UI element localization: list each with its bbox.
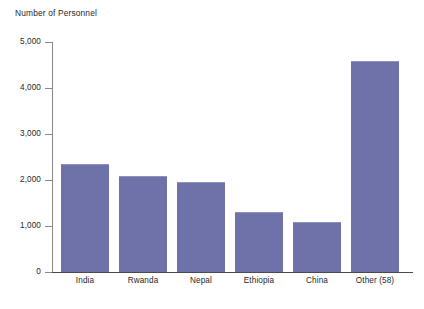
x-axis-label: China [288, 276, 346, 285]
y-axis-tick-mark [45, 272, 52, 273]
bar-series [52, 42, 408, 272]
bar-ethiopia [235, 212, 284, 272]
bar-slot [172, 42, 230, 272]
y-axis-title: Number of Personnel [15, 8, 97, 18]
x-axis-label: Ethiopia [230, 276, 288, 285]
y-axis-tick-label: 4,000 [0, 83, 41, 92]
bar-other-58 [351, 61, 400, 272]
y-axis-tick-label: 0 [0, 267, 41, 276]
bar-slot [288, 42, 346, 272]
y-axis-tick-label: 1,000 [0, 221, 41, 230]
y-axis-tick-label: 2,000 [0, 175, 41, 184]
y-axis-tick-label: 5,000 [0, 37, 41, 46]
y-axis-tick-mark [45, 42, 52, 43]
y-axis-tick-label: 3,000 [0, 129, 41, 138]
y-axis-tick-mark [45, 134, 52, 135]
x-axis-label: Other (58) [346, 276, 404, 285]
source-note-strip [0, 301, 424, 309]
bar-rwanda [119, 176, 168, 272]
bar-nepal [177, 182, 226, 272]
y-axis-tick-mark [45, 226, 52, 227]
bar-china [293, 222, 342, 272]
bar-slot [346, 42, 404, 272]
bar-slot [114, 42, 172, 272]
bar-chart: Number of Personnel 5,0004,0003,0002,000… [0, 0, 424, 309]
x-axis-baseline [52, 272, 413, 273]
y-axis-tick-mark [45, 88, 52, 89]
x-axis-label: Rwanda [114, 276, 172, 285]
bar-india [61, 164, 110, 272]
bar-slot [56, 42, 114, 272]
bar-slot [230, 42, 288, 272]
y-axis-tick-mark [45, 180, 52, 181]
x-axis-labels: IndiaRwandaNepalEthiopiaChinaOther (58) [52, 276, 408, 285]
x-axis-label: India [56, 276, 114, 285]
x-axis-label: Nepal [172, 276, 230, 285]
